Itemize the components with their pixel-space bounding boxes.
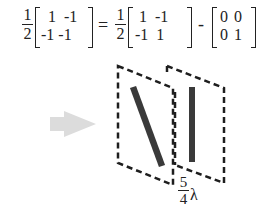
spacing-label: 5 4 bbox=[178, 175, 189, 206]
waveplate-panel bbox=[167, 66, 224, 183]
diagonal-bar bbox=[133, 87, 162, 166]
vertical-bar bbox=[189, 87, 195, 162]
lambda-symbol: λ bbox=[190, 186, 198, 204]
polarizer-panel bbox=[118, 66, 173, 185]
optics-diagram bbox=[0, 0, 270, 216]
arrow-right-icon bbox=[50, 111, 96, 137]
spacing-numerator: 5 bbox=[178, 175, 189, 189]
spacing-denominator: 4 bbox=[178, 192, 189, 206]
